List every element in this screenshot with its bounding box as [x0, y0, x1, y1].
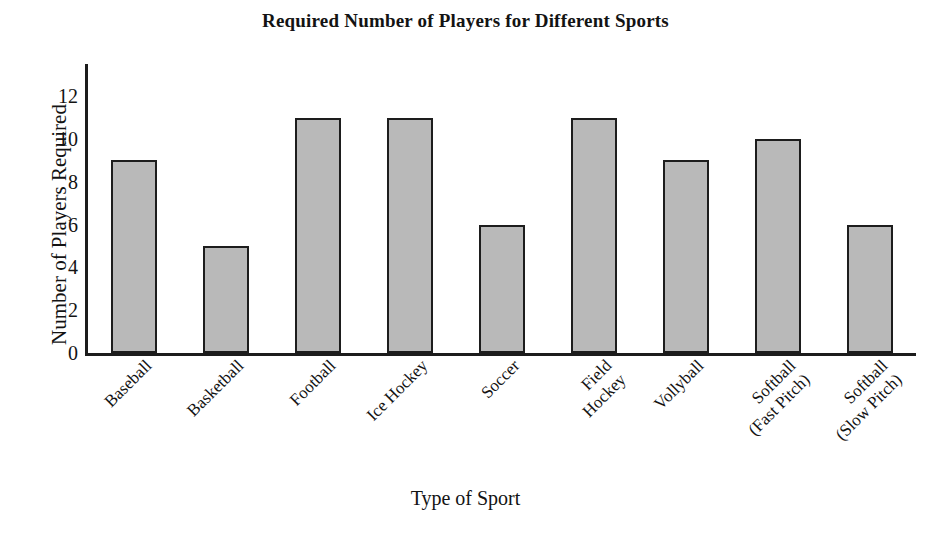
x-tick-label-line: Soccer [477, 356, 523, 402]
x-tick-label-line: Football [286, 356, 340, 410]
bar [847, 225, 893, 353]
y-tick-label: 2 [38, 300, 78, 320]
bar-chart: Required Number of Players for Different… [0, 0, 931, 539]
y-axis-tick-labels: 024681012 [30, 0, 78, 380]
bar [203, 246, 249, 353]
x-tick-label-line: Baseball [101, 356, 156, 411]
bar [387, 118, 433, 353]
bar [111, 160, 157, 353]
bar [663, 160, 709, 353]
bar [295, 118, 341, 353]
x-axis-title: Type of Sport [0, 487, 931, 510]
plot-area [88, 64, 916, 353]
x-tick-label-line: Hockey [510, 370, 630, 490]
bar [479, 225, 525, 353]
x-tick-label-line: Vollyball [650, 356, 707, 413]
x-tick-label-line: Ice Hockey [363, 356, 432, 425]
y-tick-label: 6 [38, 215, 78, 235]
y-tick-label: 4 [38, 257, 78, 277]
bar [571, 118, 617, 353]
x-axis-tick-labels: BaseballBasketballFootballIce HockeySocc… [0, 356, 931, 476]
y-tick-label: 12 [38, 86, 78, 106]
chart-title: Required Number of Players for Different… [0, 10, 931, 32]
bar [755, 139, 801, 353]
y-tick-label: 8 [38, 172, 78, 192]
y-tick-label: 10 [38, 129, 78, 149]
x-tick-label-line: Basketball [183, 356, 247, 420]
